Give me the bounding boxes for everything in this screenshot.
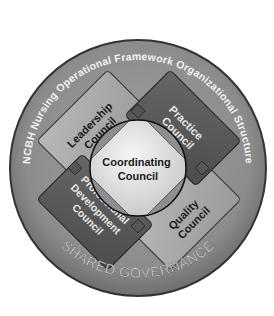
shared-governance-diagram: NCBH Nursing Operational Framework Organ… [0, 0, 274, 316]
